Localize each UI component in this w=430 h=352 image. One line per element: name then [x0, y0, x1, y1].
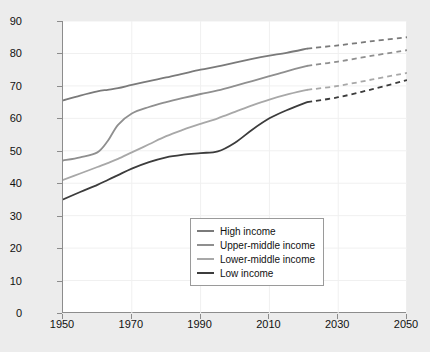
x-tick-label: 2050 — [394, 318, 418, 330]
series-line-historical-1 — [63, 66, 307, 161]
y-tick-label: 40 — [0, 177, 22, 189]
x-tick-mark — [406, 314, 407, 319]
legend-line-swatch-icon — [197, 272, 214, 274]
y-tick-mark — [57, 183, 62, 184]
x-tick-label: 2030 — [325, 318, 349, 330]
legend-line-swatch-icon — [197, 244, 214, 246]
life-expectancy-chart-figure: Age (years) 9080706050403020100 19501970… — [0, 0, 430, 352]
legend-item[interactable]: Low income — [197, 266, 315, 280]
y-tick-label: 30 — [0, 210, 22, 222]
y-tick-mark — [57, 53, 62, 54]
legend-item-label: Lower-middle income — [220, 254, 315, 265]
y-tick-label: 20 — [0, 242, 22, 254]
y-tick-label: 60 — [0, 112, 22, 124]
series-line-historical-0 — [63, 49, 307, 101]
chart-legend: High incomeUpper-middle incomeLower-midd… — [190, 218, 324, 286]
series-line-projected-0 — [307, 37, 407, 48]
y-tick-mark — [57, 216, 62, 217]
x-tick-label: 1950 — [50, 318, 74, 330]
series-line-projected-2 — [307, 73, 407, 90]
legend-item[interactable]: Upper-middle income — [197, 238, 315, 252]
x-tick-mark — [131, 314, 132, 319]
legend-line-swatch-icon — [197, 230, 214, 232]
legend-item-label: Low income — [220, 268, 273, 279]
y-tick-label: 80 — [0, 47, 22, 59]
x-tick-label: 1970 — [119, 318, 143, 330]
y-tick-mark — [57, 118, 62, 119]
y-tick-mark — [57, 281, 62, 282]
x-tick-mark — [337, 314, 338, 319]
y-tick-label: 50 — [0, 145, 22, 157]
legend-line-swatch-icon — [197, 258, 214, 260]
series-line-historical-2 — [63, 90, 307, 180]
y-tick-label: 10 — [0, 275, 22, 287]
y-tick-mark — [57, 151, 62, 152]
legend-item-label: High income — [220, 226, 276, 237]
y-tick-mark — [57, 86, 62, 87]
x-tick-label: 2010 — [256, 318, 280, 330]
y-tick-mark — [57, 248, 62, 249]
legend-item-label: Upper-middle income — [220, 240, 315, 251]
x-tick-mark — [268, 314, 269, 319]
legend-item[interactable]: High income — [197, 224, 315, 238]
series-line-projected-1 — [307, 50, 407, 66]
x-tick-label: 1990 — [187, 318, 211, 330]
y-tick-label: 0 — [0, 307, 22, 319]
series-line-projected-3 — [307, 80, 407, 102]
y-tick-mark — [57, 21, 62, 22]
y-tick-label: 90 — [0, 15, 22, 27]
y-tick-label: 70 — [0, 80, 22, 92]
x-tick-mark — [200, 314, 201, 319]
legend-item[interactable]: Lower-middle income — [197, 252, 315, 266]
x-tick-mark — [62, 314, 63, 319]
